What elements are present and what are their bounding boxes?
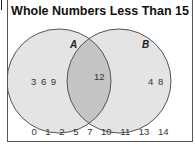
outside-value: 11 bbox=[120, 126, 130, 137]
outside-value: 1 bbox=[45, 126, 50, 137]
set-b-label: B bbox=[142, 39, 149, 50]
venn-diagram-frame: Whole Numbers Less Than 15 A B 3 6 9 12 … bbox=[7, 0, 193, 142]
outside-value: 0 bbox=[31, 126, 36, 137]
outside-value: 14 bbox=[158, 126, 169, 137]
outside-value: 7 bbox=[87, 126, 92, 137]
outside-values: 0 1 2 5 7 10 11 13 14 bbox=[8, 126, 192, 137]
outside-value: 2 bbox=[59, 126, 64, 137]
intersection-values: 12 bbox=[94, 71, 105, 82]
left-edge-mark bbox=[1, 0, 2, 10]
outside-value: 5 bbox=[73, 126, 78, 137]
set-a-label: A bbox=[70, 39, 77, 50]
outside-value: 10 bbox=[101, 126, 112, 137]
set-a-only-values: 3 6 9 bbox=[31, 76, 56, 87]
set-b-only-values: 4 8 bbox=[148, 76, 163, 87]
outside-value: 13 bbox=[139, 126, 150, 137]
